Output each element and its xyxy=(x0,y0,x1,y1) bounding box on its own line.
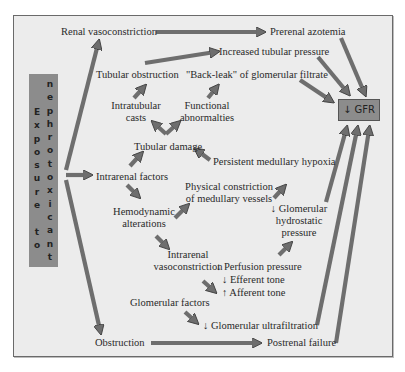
label-line: Intrarenal xyxy=(148,249,228,261)
letter: t xyxy=(31,226,43,239)
letter: x xyxy=(31,119,43,132)
letter: o xyxy=(31,239,43,252)
letter: r xyxy=(31,186,43,199)
letter xyxy=(31,212,43,225)
arrow-obstruction-to-increased-pressure xyxy=(145,52,215,63)
decreased-gfr-box: ↓ GFR xyxy=(338,99,380,121)
node-glomerular-factors: Glomerular factors xyxy=(130,297,210,309)
label-line: hydrostatic xyxy=(266,215,332,227)
node-decreased-perfusion-pressure: ↓ Perfusion pressure xyxy=(216,261,302,273)
arrow-to-obstruction xyxy=(66,180,100,330)
letter: x xyxy=(44,184,56,197)
letter: h xyxy=(44,118,56,131)
arrow-intrarenal-to-damage xyxy=(130,155,140,166)
letter: n xyxy=(44,78,56,91)
letter: i xyxy=(44,198,56,211)
node-back-leak: "Back-leak" of glomerular filtrate xyxy=(186,69,328,81)
node-postrenal-failure: Postrenal failure xyxy=(267,337,336,349)
arrow-hemodynamic-to-physical xyxy=(175,207,186,218)
arrow-casts-to-obstruction xyxy=(134,88,143,98)
label-line: casts xyxy=(108,112,164,124)
arrow-functional-to-backleak xyxy=(208,88,216,98)
exposure-to-nephrotoxicant-box: E x p o s u r e t o n e p h r o t o x i … xyxy=(29,74,58,267)
letter: u xyxy=(31,172,43,185)
arrow-glomerular-factors-to-ultrafiltration xyxy=(185,312,195,321)
sidebar-text-exposure-to: E x p o s u r e t o xyxy=(31,106,43,252)
arrow-perfusion-to-glomerular xyxy=(279,245,289,255)
node-tubular-damage: Tubular damage xyxy=(134,141,202,153)
node-renal-vasoconstriction: Renal vasoconstriction xyxy=(61,26,157,38)
label-line: abnormalties xyxy=(178,112,236,124)
node-hemodynamic-alterations: Hemodynamic alterations xyxy=(112,206,176,230)
label-line: Intratubular xyxy=(108,100,164,112)
label-line: Physical constriction xyxy=(183,181,275,193)
arrow-backleak-to-gfr xyxy=(300,80,330,100)
node-intratubular-casts: Intratubular casts xyxy=(108,100,164,124)
label-line: ↓ Glomerular xyxy=(266,203,332,215)
sidebar-text-nephrotoxicant: n e p h r o t o x i c a n t xyxy=(44,78,56,264)
arrow-prerenal-to-gfr xyxy=(341,38,364,92)
node-functional-abnormalities: Functional abnormalties xyxy=(178,100,236,124)
node-physical-constriction: Physical constriction of medullary vesse… xyxy=(183,181,275,205)
letter: t xyxy=(44,158,56,171)
node-increased-tubular-pressure: Increased tubular pressure xyxy=(219,46,329,58)
node-decreased-glomerular-ultrafiltration: ↓ Glomerular ultrafiltration xyxy=(203,320,318,332)
label-line: Hemodynamic xyxy=(112,206,176,218)
label-line: alterations xyxy=(112,218,176,230)
node-obstruction: Obstruction xyxy=(95,337,145,349)
letter: o xyxy=(44,171,56,184)
node-decreased-glomerular-hydrostatic-pressure: ↓ Glomerular hydrostatic pressure xyxy=(266,203,332,239)
arrow-physical-to-hypoxia xyxy=(274,188,283,198)
letter: c xyxy=(44,211,56,224)
node-prerenal-azotemia: Prerenal azotemia xyxy=(270,26,346,38)
arrow-damage-to-casts xyxy=(155,124,166,134)
letter: e xyxy=(31,199,43,212)
letter: s xyxy=(31,159,43,172)
letter: o xyxy=(31,146,43,159)
arrow-to-renal-vasoconstriction xyxy=(66,44,98,170)
letter: a xyxy=(44,224,56,237)
letter: E xyxy=(31,106,43,119)
node-persistent-medullary-hypoxia: Persistent medullary hypoxia xyxy=(213,156,335,168)
letter: p xyxy=(44,105,56,118)
arrow-intrarenal-to-hemodynamic xyxy=(127,185,137,195)
arrow-hemodynamic-to-intrarenal-vaso xyxy=(156,236,166,246)
letter: o xyxy=(44,144,56,157)
letter: p xyxy=(31,133,43,146)
node-decreased-efferent-tone: ↓ Efferent tone xyxy=(222,274,285,286)
label-line: Functional xyxy=(178,100,236,112)
letter: e xyxy=(44,91,56,104)
arrow-damage-to-functional xyxy=(166,124,177,134)
letter: r xyxy=(44,131,56,144)
node-tubular-obstruction: Tubular obstruction xyxy=(96,69,179,81)
arrow-vaso-to-efferent xyxy=(203,281,213,290)
letter: n xyxy=(44,238,56,251)
label-line: of medullary vessels xyxy=(183,193,275,205)
node-intrarenal-factors: Intrarenal factors xyxy=(96,171,168,183)
node-increased-afferent-tone: ↑ Afferent tone xyxy=(222,287,285,299)
label-line: pressure xyxy=(266,227,332,239)
letter: t xyxy=(44,251,56,264)
